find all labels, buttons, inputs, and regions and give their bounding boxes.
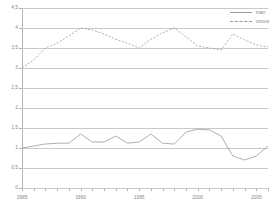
x-tick-mark [45,188,46,191]
y-tick-label: 1 [0,145,18,150]
chart-legend: man vrouw [230,8,269,26]
x-tick-mark [256,188,257,191]
y-tick-label: 0 [0,185,18,190]
series-lines [22,8,268,188]
legend-item-vrouw: vrouw [230,17,269,25]
x-tick-mark [116,188,117,191]
series-line-man [22,129,268,160]
plot-area [22,8,268,188]
x-tick-mark [69,188,70,191]
x-tick-mark [209,188,210,191]
legend-swatch-dashed-icon [230,21,252,22]
y-tick-label: 4,5 [0,5,18,10]
x-tick-mark [268,188,269,191]
x-tick-mark [104,188,105,191]
y-tick-label: 2,5 [0,85,18,90]
x-tick-label: 1995 [126,194,152,200]
x-tick-mark [139,188,140,191]
x-tick-mark [151,188,152,191]
x-tick-mark [34,188,35,191]
x-tick-mark [245,188,246,191]
x-tick-mark [198,188,199,191]
gridline [22,188,268,189]
legend-label-man: man [256,10,266,15]
x-tick-mark [186,188,187,191]
series-line-vrouw [22,28,268,68]
x-tick-label: 2000 [185,194,211,200]
y-tick-label: 1,5 [0,125,18,130]
y-tick-label: 4 [0,25,18,30]
x-tick-mark [81,188,82,191]
x-tick-mark [163,188,164,191]
y-tick-label: 0,5 [0,165,18,170]
x-tick-label: 1985 [9,194,35,200]
y-tick-label: 2 [0,105,18,110]
x-tick-mark [22,188,23,191]
x-tick-mark [233,188,234,191]
legend-label-vrouw: vrouw [256,19,269,24]
x-tick-mark [57,188,58,191]
x-tick-mark [92,188,93,191]
legend-swatch-solid-icon [230,12,252,13]
x-tick-mark [127,188,128,191]
x-tick-mark [174,188,175,191]
line-chart: 00,511,522,533,544,5 1985199019952000200… [0,0,273,207]
x-tick-label: 1990 [68,194,94,200]
legend-item-man: man [230,8,269,16]
y-tick-label: 3 [0,65,18,70]
x-tick-mark [221,188,222,191]
y-tick-label: 3,5 [0,45,18,50]
x-tick-label: 2005 [243,194,269,200]
